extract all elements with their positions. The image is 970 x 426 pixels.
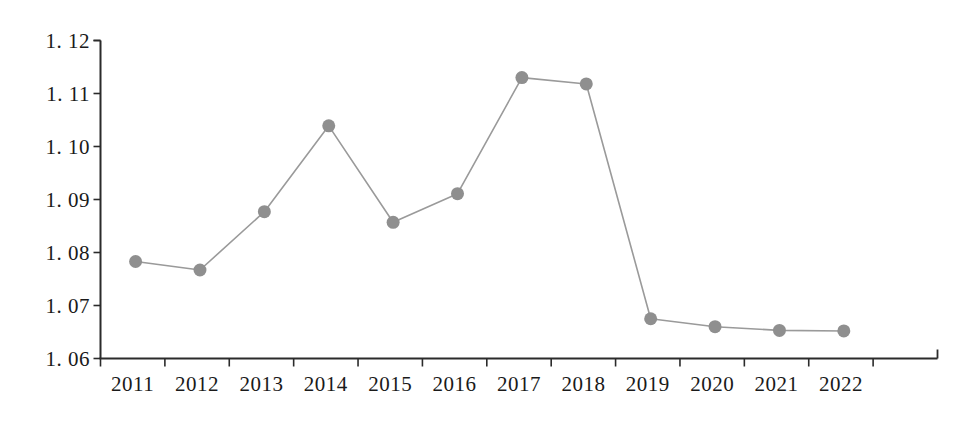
x-axis-tick-label: 2015 <box>368 372 412 397</box>
chart-canvas <box>0 0 970 426</box>
line-chart: 1. 061. 071. 081. 091. 101. 111. 12 2011… <box>0 0 970 426</box>
y-axis-tick-label: 1. 11 <box>20 81 90 106</box>
data-point-marker <box>515 71 528 84</box>
data-point-marker <box>193 263 206 276</box>
data-point-marker <box>258 205 271 218</box>
data-point-marker <box>773 324 786 337</box>
x-axis-tick-label: 2012 <box>175 372 219 397</box>
y-axis-tick-label: 1. 08 <box>20 240 90 265</box>
y-axis-tick-label: 1. 10 <box>20 134 90 159</box>
data-point-marker <box>322 119 335 132</box>
data-point-marker <box>837 324 850 337</box>
data-point-marker <box>129 255 142 268</box>
x-axis-tick-label: 2017 <box>497 372 541 397</box>
y-axis-tick-label: 1. 06 <box>20 346 90 371</box>
x-axis-tick-label: 2021 <box>755 372 799 397</box>
data-point-marker <box>387 216 400 229</box>
x-axis-tick-label: 2011 <box>111 372 154 397</box>
data-point-marker <box>451 187 464 200</box>
series-line <box>136 78 844 331</box>
y-axis-tick-label: 1. 07 <box>20 293 90 318</box>
data-point-marker <box>580 77 593 90</box>
x-axis-tick-label: 2013 <box>240 372 284 397</box>
data-point-marker <box>644 312 657 325</box>
x-axis-tick-label: 2016 <box>433 372 477 397</box>
y-axis-tick-label: 1. 09 <box>20 187 90 212</box>
chart-series <box>129 71 850 337</box>
x-axis-tick-label: 2014 <box>304 372 348 397</box>
x-axis-tick-label: 2022 <box>819 372 863 397</box>
x-axis-tick-label: 2020 <box>690 372 734 397</box>
x-axis-tick-label: 2019 <box>626 372 670 397</box>
x-axis-tick-label: 2018 <box>561 372 605 397</box>
y-axis-tick-label: 1. 12 <box>20 28 90 53</box>
data-point-marker <box>709 320 722 333</box>
